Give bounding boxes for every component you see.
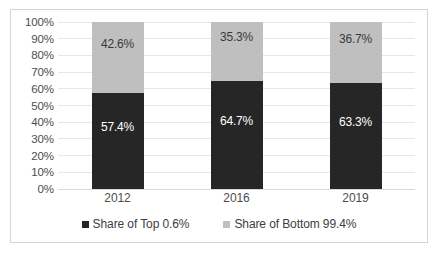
legend-item[interactable]: Share of Top 0.6% [82, 217, 190, 231]
y-axis-tick-label: 40% [31, 116, 54, 128]
x-axis-tick-label: 2012 [78, 191, 158, 205]
bar-value-label: 64.7% [211, 114, 263, 128]
chart-container: 0%10%20%30%40%50%60%70%80%90%100% 57.4%4… [10, 9, 428, 243]
bar-value-label: 35.3% [211, 30, 263, 44]
legend-label: Share of Top 0.6% [93, 217, 190, 231]
y-axis-tick-label: 0% [38, 183, 54, 195]
y-axis-tick-label: 50% [31, 100, 54, 112]
bar-segment-bottom-share[interactable] [92, 22, 144, 93]
y-axis-tick-label: 80% [31, 49, 54, 61]
y-axis: 0%10%20%30%40%50%60%70%80%90%100% [11, 22, 54, 189]
y-axis-tick-label: 60% [31, 83, 54, 95]
x-axis-tick-label: 2019 [316, 191, 396, 205]
y-axis-tick-label: 100% [25, 16, 54, 28]
y-axis-tick-label: 10% [31, 166, 54, 178]
bar-value-label: 57.4% [92, 120, 144, 134]
legend-item[interactable]: Share of Bottom 99.4% [223, 217, 356, 231]
bar-segment-top-share[interactable] [92, 93, 144, 189]
bar-group[interactable]: 64.7%35.3% [211, 22, 263, 189]
y-axis-tick-label: 70% [31, 66, 54, 78]
bar-value-label: 42.6% [92, 37, 144, 51]
legend-swatch-icon [223, 221, 230, 228]
bar-value-label: 63.3% [330, 115, 382, 129]
bar-group[interactable]: 57.4%42.6% [92, 22, 144, 189]
chart-legend: Share of Top 0.6%Share of Bottom 99.4% [11, 217, 427, 231]
bar-value-label: 36.7% [330, 32, 382, 46]
x-axis-tick-label: 2016 [197, 191, 277, 205]
legend-label: Share of Bottom 99.4% [234, 217, 356, 231]
plot-area: 57.4%42.6%64.7%35.3%63.3%36.7% [58, 22, 415, 189]
bar-segment-top-share[interactable] [330, 83, 382, 189]
y-axis-tick-label: 20% [31, 150, 54, 162]
y-axis-tick-label: 30% [31, 133, 54, 145]
x-axis: 201220162019 [58, 191, 415, 209]
bar-group[interactable]: 63.3%36.7% [330, 22, 382, 189]
legend-swatch-icon [82, 221, 89, 228]
bar-segment-top-share[interactable] [211, 81, 263, 189]
y-axis-tick-label: 90% [31, 33, 54, 45]
